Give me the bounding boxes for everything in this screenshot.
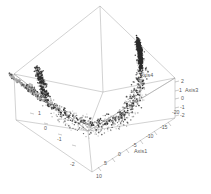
frame-edge-i: [16, 120, 88, 131]
axis4-rail: [16, 120, 92, 172]
axis1-tick-label-2: -10: [146, 133, 154, 139]
data-points: [9, 35, 149, 139]
axis3-tick-labels: 2 1 0 -1 -2: [179, 78, 185, 118]
frame-edge-vert-top: [100, 6, 103, 92]
axis4-tick-label-2: -1: [57, 136, 62, 142]
axis4-tick-1: [44, 123, 48, 124]
axis3-tick-0: [175, 81, 179, 82]
axis1-tick-label-4: 0: [118, 151, 121, 157]
axis4-tick-label-1: 0: [44, 125, 47, 131]
axis1-tick-label-5: 5: [104, 160, 107, 166]
axis1-tick-label-0: -20: [172, 109, 180, 115]
frame-edge-g: [88, 131, 92, 172]
axis1-tick-4: [112, 158, 115, 162]
axis3-tick-2: [175, 98, 179, 99]
axis1-tick-2: [140, 140, 143, 144]
axis1-tick-1: [154, 131, 157, 135]
axis3-tick-label-0: 2: [181, 78, 184, 84]
plot-canvas: -20 -15 -10 -5 0 5 10 Axis1 2 1 0 -1 -2 …: [0, 0, 211, 194]
axis1-tick-label-6: 10: [96, 173, 102, 179]
axis3-tick-label-4: -2: [180, 112, 185, 118]
axis4-tick-label-3: -2: [70, 161, 75, 167]
axis1-tick-5: [98, 167, 101, 171]
3d-scatter-plot: -20 -15 -10 -5 0 5 10 Axis1 2 1 0 -1 -2 …: [0, 0, 211, 194]
axis3-tick-label-1: 1: [179, 87, 182, 93]
axis3-title: Axis3: [185, 87, 198, 93]
axis1-title: Axis1: [134, 148, 147, 154]
axis4-tick-label-0: 1: [38, 110, 41, 116]
axis3-tick-label-2: 0: [181, 95, 184, 101]
axis1-tick-label-1: -15: [160, 124, 168, 130]
axis4-tick-0: [30, 113, 34, 114]
axis3-tick-3: [175, 107, 179, 108]
plot-frame: [14, 6, 175, 172]
axis1-tick-3: [126, 149, 129, 153]
axis4-tick-3: [72, 145, 76, 146]
axis3-tick-4: [175, 115, 179, 116]
axis1-tick-0: [168, 122, 171, 126]
axis4-tick-2: [58, 134, 62, 135]
axis3-tick-label-3: -1: [180, 104, 185, 110]
